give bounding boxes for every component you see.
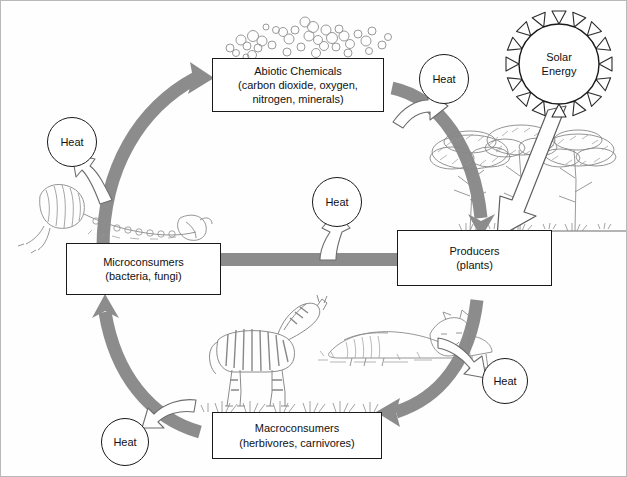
ecosystem-diagram: Solar Energy Abiotic Chemicals (carbon d… — [0, 0, 627, 477]
heat-node-bottom-right[interactable]: Heat — [482, 358, 528, 404]
node-abiotic-line2: (carbon dioxide, oxygen, — [238, 78, 358, 92]
node-macroconsumers-line2: (herbivores, carnivores) — [239, 436, 355, 450]
node-microconsumers-line2: (bacteria, fungi) — [105, 269, 181, 283]
heat-node-bottom-left[interactable]: Heat — [101, 418, 149, 466]
node-microconsumers-line1: Microconsumers — [103, 255, 184, 269]
heat-label: Heat — [493, 375, 516, 387]
node-producers-line1: Producers — [449, 244, 499, 258]
node-microconsumers[interactable]: Microconsumers (bacteria, fungi) — [66, 243, 221, 295]
chemical-molecule-bubbles — [226, 17, 392, 60]
node-macroconsumers-line1: Macroconsumers — [255, 421, 339, 435]
node-macroconsumers[interactable]: Macroconsumers (herbivores, carnivores) — [212, 412, 382, 459]
sun-label-line1: Solar — [546, 50, 572, 64]
node-producers-line2: (plants) — [456, 258, 493, 272]
zebra-illustration — [209, 295, 327, 406]
heat-label: Heat — [60, 136, 83, 148]
heat-node-left[interactable]: Heat — [47, 117, 97, 167]
heat-node-top-right[interactable]: Heat — [419, 54, 469, 104]
flow-micro-to-abiotic — [103, 62, 214, 248]
node-abiotic-chemicals[interactable]: Abiotic Chemicals (carbon dioxide, oxyge… — [212, 58, 384, 112]
node-abiotic-line1: Abiotic Chemicals — [254, 64, 341, 78]
heat-node-center[interactable]: Heat — [312, 177, 362, 227]
heat-label: Heat — [432, 73, 455, 85]
node-producers[interactable]: Producers (plants) — [397, 230, 552, 286]
sun-label-line2: Energy — [542, 64, 577, 78]
solar-energy-node: Solar Energy — [505, 10, 613, 118]
heat-label: Heat — [325, 196, 348, 208]
node-abiotic-line3: nitrogen, minerals) — [252, 92, 343, 106]
heat-label: Heat — [113, 436, 136, 448]
